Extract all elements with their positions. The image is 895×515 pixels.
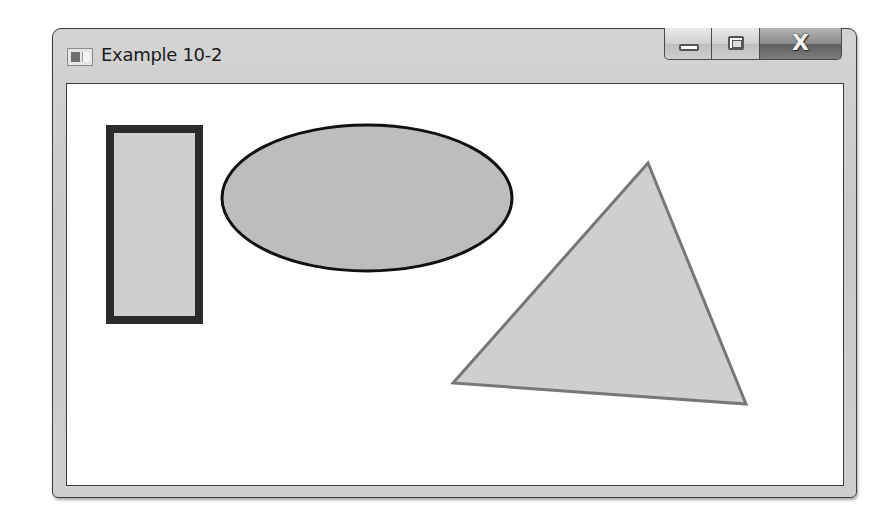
maximize-icon [728, 36, 744, 50]
close-icon: X [760, 30, 841, 56]
app-icon-pane [71, 52, 80, 62]
minimize-button[interactable] [664, 28, 712, 60]
application-window: Example 10-2 X [52, 28, 857, 498]
title-bar[interactable]: Example 10-2 X [53, 29, 856, 83]
ellipse-shape [222, 125, 512, 271]
client-area [66, 83, 844, 486]
close-button[interactable]: X [760, 28, 842, 60]
window-controls: X [664, 28, 842, 61]
drawing-canvas [67, 84, 844, 486]
minimize-icon [679, 44, 699, 51]
app-icon-pane [82, 52, 90, 62]
maximize-button[interactable] [712, 28, 760, 60]
window-title: Example 10-2 [101, 44, 222, 65]
rectangle-shape [110, 129, 199, 320]
app-window-icon[interactable] [67, 48, 93, 66]
